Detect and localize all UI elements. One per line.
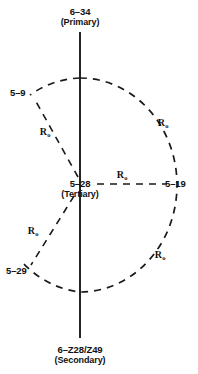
spoke-to-5-9 [34,98,78,177]
node-name-primary: 6–34 [70,6,91,17]
relation-label-arc-upper-right-sub: o [165,121,168,128]
node-label-5-19: 5–19 [165,178,186,189]
diagram-canvas: 6–34 (Primary) 6–Z28/Z49 (Secondary) 5–2… [0,0,198,374]
node-label-primary: 6–34 (Primary) [61,6,100,28]
relation-label-arc-lower-right-sub: o [162,253,165,260]
node-name-tertiary: 5–28 [70,178,91,189]
node-label-5-9: 5–9 [10,87,26,98]
relation-label-horizontal: Ro [117,169,127,180]
relation-label-arc-upper-right: Ro [158,117,168,128]
node-role-tertiary: (Tertiary) [61,189,98,200]
relation-label-horizontal-sub: o [124,173,127,180]
node-label-tertiary: 5–28 (Tertiary) [61,178,98,200]
node-role-secondary: (Secondary) [55,355,106,366]
relation-label-upper-left-sub: o [47,130,50,137]
node-name-secondary: 6–Z28/Z49 [57,344,102,355]
node-name-5-9: 5–9 [10,87,26,98]
relation-label-lower-left-sub: o [35,229,38,236]
node-label-secondary: 6–Z28/Z49 (Secondary) [55,344,106,366]
relation-label-arc-lower-right: Ro [155,249,165,260]
relation-circle-arc [22,78,177,292]
relation-label-upper-left: Ro [40,126,50,137]
node-role-primary: (Primary) [61,17,100,28]
node-name-5-29: 5–29 [6,265,27,276]
node-name-5-19: 5–19 [165,178,186,189]
relation-label-lower-left: Ro [28,225,38,236]
node-label-5-29: 5–29 [6,265,27,276]
relation-circle-arc-upper-left [30,78,80,95]
